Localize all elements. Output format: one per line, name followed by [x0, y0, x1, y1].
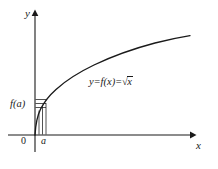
equation-lhs-variable: y	[89, 76, 94, 87]
origin-label: 0	[21, 136, 26, 146]
y-axis-label: y	[25, 8, 30, 19]
x-axis-arrowhead	[190, 132, 197, 139]
equation-function-notation: f(x)	[101, 76, 116, 87]
y-axis-arrowhead	[32, 10, 39, 17]
equation-equals-1: =	[94, 76, 101, 87]
function-equation-label: y=f(x)=√x	[89, 76, 133, 88]
x-axis-label: x	[196, 140, 201, 151]
x-value-a-label: a	[41, 136, 46, 146]
equation-equals-2: =	[115, 76, 122, 87]
radical-group: √x	[122, 76, 133, 88]
radicand: x	[127, 76, 133, 88]
y-value-fa-label: f(a)	[10, 99, 25, 110]
math-figure: y x 0 a f(a) y=f(x)=√x	[0, 0, 218, 169]
